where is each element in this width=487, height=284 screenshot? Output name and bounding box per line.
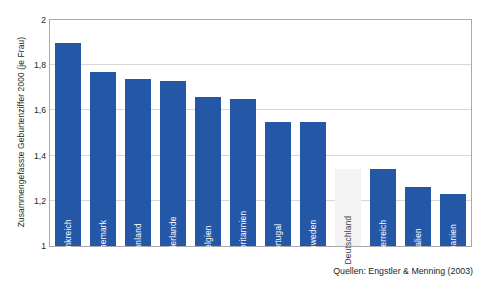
bar: Dänemark	[90, 72, 116, 246]
bar-label: Österreich	[373, 220, 383, 261]
bar-label-text: Frankreich	[63, 219, 73, 261]
bar: Österreich	[370, 169, 396, 246]
bar-label-text: Österreich	[378, 220, 388, 261]
bar-label-text: Schweden	[308, 220, 318, 261]
plot-area: FrankreichDänemarkFinnlandNiederlandeBel…	[49, 19, 472, 247]
bar-label-text: Belgien	[203, 225, 213, 254]
bar: Großbritannien	[230, 99, 256, 246]
bar-label: Deutschland	[338, 216, 348, 265]
y-tick-label: 1	[41, 241, 46, 251]
y-tick-label: 1,6	[34, 105, 46, 115]
y-tick-label: 1,4	[34, 151, 46, 161]
bar-label: Portugal	[268, 224, 278, 257]
y-tick-label: 1,8	[34, 60, 46, 70]
bar-label: Spanien	[443, 224, 453, 256]
bar: Schweden	[300, 122, 326, 246]
y-tick-label: 1,2	[34, 196, 46, 206]
source-note: Quellen: Engstler & Menning (2003)	[333, 266, 473, 276]
bar: Niederlande	[160, 81, 186, 246]
bar-label-text: Niederlande	[168, 216, 178, 263]
bar-label: Großbritannien	[233, 211, 243, 270]
bar: Belgien	[195, 97, 221, 246]
bar-label-text: Portugal	[273, 224, 283, 257]
bar-label-text: Finnland	[133, 223, 143, 257]
bar-label-text: Großbritannien	[238, 211, 248, 270]
bar: Deutschland	[335, 169, 361, 246]
bar-label: Belgien	[198, 225, 208, 254]
fertility-rate-bar-chart: Zusammengefasste Geburtenziffer 2000 (je…	[0, 0, 487, 284]
bar: Frankreich	[55, 43, 81, 246]
bar-label: Niederlande	[163, 216, 173, 263]
bar: Finnland	[125, 79, 151, 246]
bar-label: Finnland	[128, 223, 138, 257]
bar-label-text: Deutschland	[343, 216, 353, 265]
bar-series: FrankreichDänemarkFinnlandNiederlandeBel…	[50, 20, 471, 246]
bar-label: Frankreich	[58, 219, 68, 261]
bar-label-text: Italien	[413, 228, 423, 252]
y-tick-label: 2	[41, 15, 46, 25]
bar-label: Dänemark	[93, 220, 103, 260]
bar: Italien	[405, 187, 431, 246]
bar-label-text: Spanien	[448, 224, 458, 256]
bar-label: Schweden	[303, 220, 313, 261]
bar-label-text: Dänemark	[98, 220, 108, 260]
y-axis-tick-labels: 11,21,41,61,82	[20, 19, 46, 247]
bar: Portugal	[265, 122, 291, 246]
bar-label: Italien	[408, 228, 418, 252]
bar: Spanien	[440, 194, 466, 246]
